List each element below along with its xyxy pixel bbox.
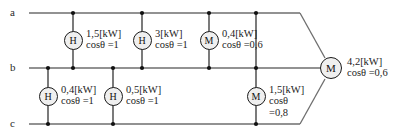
node-dot [207, 11, 211, 15]
node-dot [207, 66, 211, 70]
load-caption-h4: 0,5[kW] cosθ =1 [126, 84, 161, 107]
node-dot [111, 66, 115, 70]
load-pf-h4: cosθ =1 [126, 95, 161, 106]
load-power-h1: 1,5[kW] [86, 28, 121, 39]
feeder-a-to-main [300, 13, 325, 58]
circuit-diagram: a b c H 1,5[kW] cosθ =1 H 3[kW] cosθ =1 … [0, 0, 406, 139]
load-pf-h2: cosθ =1 [155, 39, 188, 50]
load-caption-m-main: 4,2[kW] cosθ =0,6 [347, 56, 388, 79]
node-dot [46, 122, 50, 126]
node-dot [111, 122, 115, 126]
load-symbol-m1[interactable]: M [200, 31, 219, 50]
load-power-h4: 0,5[kW] [126, 84, 161, 95]
node-dot [254, 122, 258, 126]
node-dot [140, 66, 144, 70]
load-symbol-m-main[interactable]: M [320, 57, 342, 79]
load-power-m1: 0,4[kW] [222, 28, 263, 39]
load-symbol-h3[interactable]: H [39, 87, 58, 106]
load-power-h3: 0,4[kW] [61, 84, 96, 95]
load-pf-m1: cosθ =0,6 [222, 39, 263, 50]
load-symbol-h1[interactable]: H [64, 31, 83, 50]
load-pf-h3: cosθ =1 [61, 95, 96, 106]
load-caption-h1: 1,5[kW] cosθ =1 [86, 28, 121, 51]
node-dot [254, 66, 258, 70]
bus-label-a: a [10, 7, 15, 18]
load-caption-h3: 0,4[kW] cosθ =1 [61, 84, 96, 107]
node-dot [254, 11, 258, 15]
load-pf-h1: cosθ =1 [86, 39, 121, 50]
load-symbol-h4[interactable]: H [104, 87, 123, 106]
load-pf-value-m2: =0,8 [269, 107, 304, 118]
node-dot [71, 66, 75, 70]
node-dot [46, 66, 50, 70]
load-power-m2: 1,5[kW] [269, 84, 304, 95]
load-symbol-m2[interactable]: M [247, 87, 266, 106]
load-pf-m-main: cosθ =0,6 [347, 67, 388, 78]
load-symbol-h2[interactable]: H [133, 31, 152, 50]
bus-label-b: b [10, 62, 16, 73]
node-dot [140, 11, 144, 15]
wiring-lines [0, 0, 406, 139]
load-power-m-main: 4,2[kW] [347, 56, 388, 67]
load-pf-m2: cosθ [269, 95, 304, 106]
load-caption-m1: 0,4[kW] cosθ =0,6 [222, 28, 263, 51]
bus-label-c: c [10, 118, 15, 129]
load-caption-h2: 3[kW] cosθ =1 [155, 28, 188, 51]
node-dot [71, 11, 75, 15]
load-caption-m2: 1,5[kW] cosθ =0,8 [269, 84, 304, 118]
load-power-h2: 3[kW] [155, 28, 188, 39]
